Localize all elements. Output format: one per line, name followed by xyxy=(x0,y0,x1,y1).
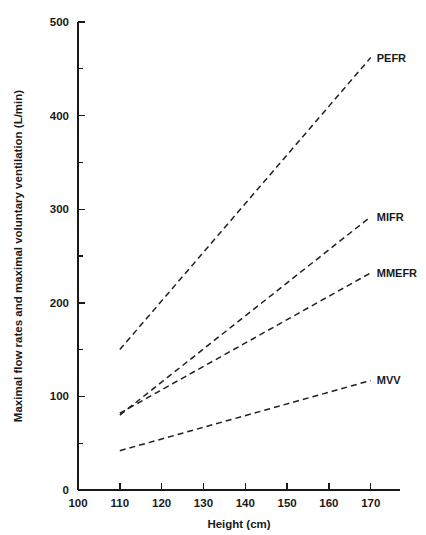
line-chart: 0100200300400500100110120130140150160170… xyxy=(0,0,426,535)
y-tick-label: 0 xyxy=(63,484,69,496)
x-tick-label: 150 xyxy=(277,497,296,509)
x-tick-label: 120 xyxy=(152,497,171,509)
axis-titles-group: Height (cm)Maximal flow rates and maxima… xyxy=(12,90,271,530)
y-axis-title: Maximal flow rates and maximal voluntary… xyxy=(12,90,24,422)
series-line-mvv xyxy=(120,380,371,450)
series-line-mmefr xyxy=(120,273,371,413)
series-label-mifr: MIFR xyxy=(377,211,404,223)
ticks-group xyxy=(78,22,371,490)
x-tick-label: 110 xyxy=(111,497,130,509)
y-tick-label: 100 xyxy=(50,390,69,402)
series-line-mifr xyxy=(120,217,371,415)
series-label-mvv: MVV xyxy=(377,374,402,386)
y-tick-label: 400 xyxy=(50,110,69,122)
x-tick-label: 140 xyxy=(236,497,255,509)
x-tick-label: 100 xyxy=(68,497,87,509)
series-label-mmefr: MMEFR xyxy=(377,267,417,279)
tick-labels-group: 0100200300400500100110120130140150160170 xyxy=(50,16,381,509)
axes-group xyxy=(78,22,400,490)
x-tick-label: 160 xyxy=(319,497,338,509)
y-tick-label: 500 xyxy=(50,16,69,28)
series-group xyxy=(120,58,371,451)
y-tick-label: 200 xyxy=(50,297,69,309)
chart-figure: 0100200300400500100110120130140150160170… xyxy=(0,0,426,535)
series-label-pefr: PEFR xyxy=(377,52,406,64)
x-axis-title: Height (cm) xyxy=(207,518,270,530)
series-labels-group: PEFRMIFRMMEFRMVV xyxy=(377,52,417,387)
x-tick-label: 170 xyxy=(361,497,380,509)
series-line-pefr xyxy=(120,58,371,350)
y-tick-label: 300 xyxy=(50,203,69,215)
x-tick-label: 130 xyxy=(194,497,213,509)
